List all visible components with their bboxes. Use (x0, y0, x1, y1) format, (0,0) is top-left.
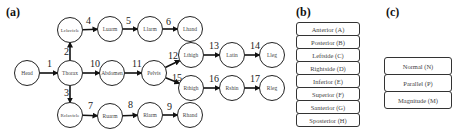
list-item: Santerior (G) (296, 100, 360, 114)
list-item: Normal (N) (384, 57, 452, 75)
edge-label: 6 (166, 16, 171, 27)
edge-label: 17 (250, 73, 260, 84)
node-label: Abdomen (101, 70, 123, 76)
list-item: Rightside (D) (296, 61, 360, 75)
list-item: Superior (F) (296, 87, 360, 101)
edge-label: 4 (86, 15, 91, 26)
edge-label: 14 (250, 40, 260, 51)
list-item: Posterior (B) (296, 35, 360, 49)
node-label: Latin (226, 52, 238, 58)
node-label: Lleg (267, 52, 277, 58)
node-label: Rlarm (143, 112, 157, 118)
edge-label: 11 (132, 58, 142, 69)
edge-label: 8 (128, 99, 133, 110)
node-label: Lthigh (184, 52, 199, 58)
measure-list: Normal (N)Parallel (P)Magnitude (M) (384, 58, 452, 109)
node-label: Rshin (226, 85, 239, 91)
edge-label: 5 (126, 15, 131, 26)
node-label: Llarm (143, 26, 157, 32)
skeleton-graph: 1234567891011121314151617 HeadThoraxAbdo… (0, 0, 300, 135)
node-label: Pelvis (147, 70, 160, 76)
edge-label: 9 (167, 101, 172, 112)
list-item: Sposterior (H) (296, 113, 360, 127)
node-label: Rleg (267, 85, 278, 91)
edge-label: 10 (90, 58, 100, 69)
edge-label: 12 (168, 50, 178, 61)
direction-list: Anterior (A)Posterior (B)Leftside (C)Rig… (296, 23, 360, 127)
node-label: Luarm (103, 26, 118, 32)
list-item: Magnitude (M) (384, 91, 452, 109)
edge-label: 1 (47, 58, 52, 69)
list-item: Anterior (A) (296, 22, 360, 36)
node-label: Rclavicle (61, 113, 81, 118)
node-label: Rthigh (184, 85, 199, 91)
list-item: Inferior (E) (296, 74, 360, 88)
node-label: Ruarm (103, 113, 119, 119)
edge-12 (165, 60, 180, 67)
list-item: Leftside (C) (296, 48, 360, 62)
edge-label: 13 (209, 40, 219, 51)
panel-c-label: (c) (386, 5, 399, 20)
list-item: Parallel (P) (384, 74, 452, 92)
node-label: Lclavicle (61, 28, 80, 33)
edge-label: 7 (88, 100, 93, 111)
edge-label: 16 (209, 73, 219, 84)
node-label: Lhand (183, 26, 197, 32)
edge-label: 3 (64, 87, 69, 98)
node-label: Rhand (183, 112, 198, 118)
node-label: Head (21, 70, 33, 76)
edge-label: 2 (64, 46, 69, 57)
node-label: Thorax (62, 70, 78, 76)
